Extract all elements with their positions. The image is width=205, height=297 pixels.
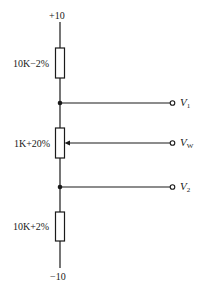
- terminal-v2: [170, 185, 175, 190]
- resistor-r1-label: 10K−2%: [13, 59, 49, 69]
- output-vw-label: VW: [180, 137, 193, 152]
- resistor-r2-label: 10K+2%: [13, 222, 49, 232]
- resistor-r1: [56, 48, 65, 78]
- terminal-vw: [170, 141, 175, 146]
- supply-top-label: +10: [49, 11, 65, 21]
- potentiometer-body: [56, 128, 65, 158]
- potentiometer-label: 1K+20%: [14, 139, 50, 149]
- resistor-r2: [56, 212, 65, 241]
- output-v2-label: V2: [180, 181, 190, 196]
- output-v1-label: V1: [180, 97, 190, 112]
- terminal-v1: [170, 101, 175, 106]
- supply-bottom-label: −10: [50, 272, 66, 282]
